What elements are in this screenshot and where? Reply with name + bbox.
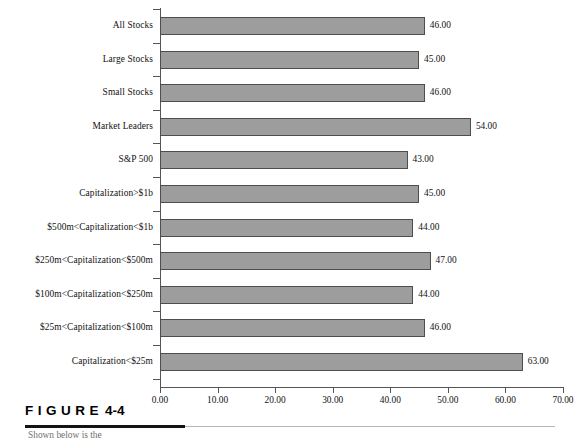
- x-axis-tick: [563, 387, 564, 393]
- category-label: S&P 500: [119, 154, 153, 165]
- bar-value-label: 47.00: [436, 255, 457, 266]
- category-label: $250m<Capitalization<$500m: [35, 255, 153, 266]
- category-label: Market Leaders: [93, 121, 153, 132]
- bar: [160, 252, 431, 270]
- x-axis-tick: [390, 387, 391, 393]
- category-label: Capitalization<$25m: [72, 356, 153, 367]
- bar: [160, 286, 413, 304]
- bar-value-label: 45.00: [424, 188, 445, 199]
- y-axis-tick: [153, 43, 160, 44]
- category-label: $25m<Capitalization<$100m: [40, 322, 153, 333]
- category-label: Large Stocks: [103, 54, 153, 65]
- y-axis-tick: [153, 244, 160, 245]
- figure-caption: FIGURE4-4 Shown below is the: [0, 403, 581, 438]
- figure-container: All StocksLarge StocksSmall StocksMarket…: [0, 0, 581, 438]
- bar: [160, 51, 419, 69]
- bar: [160, 185, 419, 203]
- bar: [160, 151, 408, 169]
- x-axis-tick: [448, 387, 449, 393]
- y-axis-tick: [153, 311, 160, 312]
- bar-value-label: 63.00: [528, 356, 549, 367]
- figure-number: 4-4: [105, 403, 125, 418]
- bar: [160, 219, 413, 237]
- bar: [160, 17, 425, 35]
- x-axis-tick: [218, 387, 219, 393]
- bar-value-label: 45.00: [424, 54, 445, 65]
- category-label: All Stocks: [113, 20, 153, 31]
- x-axis-tick: [505, 387, 506, 393]
- y-axis-tick: [153, 379, 160, 380]
- bar-value-label: 54.00: [476, 121, 497, 132]
- bar-chart: All StocksLarge StocksSmall StocksMarket…: [0, 0, 581, 396]
- category-label: Capitalization>$1b: [79, 188, 153, 199]
- y-axis-tick: [153, 177, 160, 178]
- bar-value-label: 46.00: [430, 322, 451, 333]
- bar-value-label: 46.00: [430, 87, 451, 98]
- x-axis-tick: [160, 387, 161, 393]
- bar: [160, 118, 471, 136]
- category-label: $100m<Capitalization<$250m: [35, 289, 153, 300]
- y-axis-tick: [153, 110, 160, 111]
- x-axis-tick: [275, 387, 276, 393]
- y-axis-tick: [153, 278, 160, 279]
- y-axis-tick: [153, 76, 160, 77]
- y-axis-tick: [153, 211, 160, 212]
- bar: [160, 353, 523, 371]
- x-axis-line: [160, 387, 563, 388]
- bar-value-label: 43.00: [413, 154, 434, 165]
- y-axis-tick: [153, 143, 160, 144]
- category-label: Small Stocks: [103, 87, 153, 98]
- x-axis-tick: [333, 387, 334, 393]
- caption-text-clipped: Shown below is the: [28, 430, 548, 438]
- y-axis-tick: [153, 345, 160, 346]
- caption-rule-dark: [25, 425, 185, 428]
- figure-title: FIGURE4-4: [25, 403, 125, 418]
- category-label: $500m<Capitalization<$1b: [47, 222, 153, 233]
- bar: [160, 84, 425, 102]
- y-axis-tick: [153, 9, 160, 10]
- figure-label-word: FIGURE: [25, 403, 103, 418]
- bar-value-label: 44.00: [418, 222, 439, 233]
- bar-value-label: 46.00: [430, 20, 451, 31]
- bar-value-label: 44.00: [418, 289, 439, 300]
- bar: [160, 319, 425, 337]
- caption-rule-light: [185, 426, 555, 427]
